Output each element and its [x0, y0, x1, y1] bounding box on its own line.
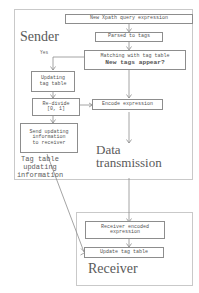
node-new-xpath-label: New Xpath query expression	[90, 16, 168, 21]
node-updating-tag-table: Updating tag table	[31, 71, 75, 92]
node-send-updating-info: Send updating information to receiver	[20, 123, 78, 153]
node-matching-decision: Matching with tag table New tags appear?	[84, 50, 186, 70]
node-update-tag-table-label: Update tag table	[100, 250, 148, 255]
data-transmission-title: Data transmission	[96, 143, 194, 169]
edge-label-tag-table-updating-info: Tag table updating information	[4, 155, 76, 179]
node-send-updating-info-label: Send updating information to receiver	[29, 130, 68, 146]
flowchart-canvas: Sender New Xpath query expression Parsed…	[0, 0, 199, 293]
node-encode-expression: Encode expression	[92, 99, 163, 110]
node-receiver-encoded-expression-label: Receiver encoded expression	[101, 225, 149, 236]
node-parsed-to-tags-label: Parsed to tags	[108, 34, 150, 39]
node-encode-expression-label: Encode expression	[102, 102, 153, 107]
node-receiver-encoded-expression: Receiver encoded expression	[85, 221, 165, 239]
sender-title: Sender	[20, 30, 59, 44]
node-update-tag-table: Update tag table	[84, 247, 164, 258]
receiver-title: Receiver	[88, 262, 138, 276]
node-new-xpath: New Xpath query expression	[65, 14, 193, 24]
node-parsed-to-tags: Parsed to tags	[95, 32, 163, 42]
node-re-divide-label: Re-divide [0, 1]	[42, 102, 69, 113]
node-re-divide: Re-divide [0, 1]	[32, 98, 80, 116]
node-updating-tag-table-label: Updating tag table	[39, 76, 66, 87]
node-matching-line2-label: New tags appear?	[105, 60, 164, 67]
edge-label-yes: Yes	[40, 50, 48, 55]
